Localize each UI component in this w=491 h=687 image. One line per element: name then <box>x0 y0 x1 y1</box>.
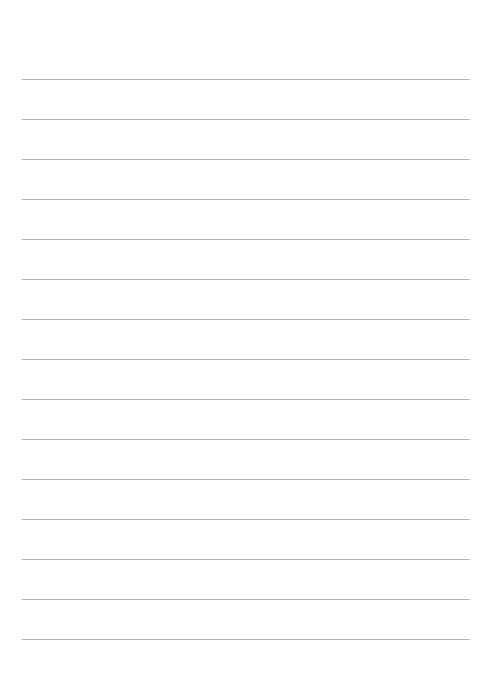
ruled-line <box>22 639 470 640</box>
ruled-line <box>22 359 470 360</box>
ruled-line <box>22 439 470 440</box>
ruled-line <box>22 399 470 400</box>
ruled-line <box>22 479 470 480</box>
ruled-line <box>22 199 470 200</box>
ruled-line <box>22 239 470 240</box>
ruled-line <box>22 279 470 280</box>
ruled-line <box>22 119 470 120</box>
ruled-line <box>22 519 470 520</box>
ruled-line <box>22 79 470 80</box>
ruled-line <box>22 319 470 320</box>
ruled-line <box>22 159 470 160</box>
ruled-line <box>22 599 470 600</box>
ruled-line <box>22 559 470 560</box>
